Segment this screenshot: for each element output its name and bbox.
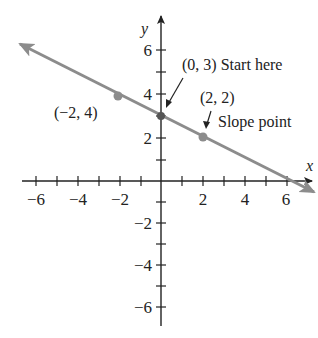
y-tick-label: 2 bbox=[144, 129, 153, 148]
coordinate-plane: −6 −4 −2 2 4 6 6 4 2 −2 −4 −6 x y (−2, 4… bbox=[0, 0, 318, 338]
slope-point-arrow-icon bbox=[203, 111, 211, 129]
label-slope-point: Slope point bbox=[218, 113, 292, 131]
label-point-neg2-4: (−2, 4) bbox=[54, 104, 98, 122]
x-tick-label: −6 bbox=[27, 190, 45, 209]
y-tick-label: −6 bbox=[134, 298, 152, 317]
x-tick-label: 4 bbox=[241, 190, 250, 209]
point-2-2 bbox=[199, 133, 208, 142]
y-tick-label: 6 bbox=[144, 41, 153, 60]
point-0-3 bbox=[157, 112, 165, 120]
x-tick-label: 6 bbox=[282, 190, 291, 209]
y-tick-label: 4 bbox=[144, 85, 153, 104]
point-neg2-4 bbox=[114, 92, 123, 101]
x-tick-label: −2 bbox=[111, 190, 129, 209]
y-tick-label: −2 bbox=[134, 214, 152, 233]
start-here-arrow-icon bbox=[166, 78, 183, 108]
x-tick-label: 2 bbox=[199, 190, 208, 209]
label-start-here: (0, 3) Start here bbox=[182, 56, 282, 74]
x-axis-label: x bbox=[305, 157, 313, 174]
x-tick-label: −4 bbox=[69, 190, 88, 209]
y-axis-label: y bbox=[139, 20, 149, 38]
y-tick-label: −4 bbox=[134, 256, 153, 275]
label-point-2-2: (2, 2) bbox=[200, 89, 235, 107]
